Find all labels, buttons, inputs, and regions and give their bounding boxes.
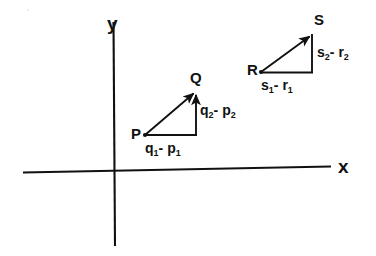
rs-triangle-shape [259, 34, 313, 74]
scan-artifact-speck [27, 9, 29, 11]
rs-vertical-term-b: r [338, 44, 343, 60]
point-label-p: P [131, 126, 141, 141]
pq-horizontal-label: q1- p1 [145, 141, 181, 155]
rs-horizontal-sub-a: 1 [269, 85, 274, 95]
y-axis-label: y [107, 14, 118, 33]
x-axis-line [23, 167, 331, 173]
rs-horizontal-sub-b: 1 [288, 85, 293, 95]
rs-horizontal-term-b: r [282, 77, 287, 93]
pq-horizontal-term-b: p [167, 140, 176, 156]
y-axis-line [114, 22, 116, 246]
pq-vertical-sub-b: 2 [231, 110, 236, 120]
pq-vertical-sub-a: 2 [209, 110, 214, 120]
rs-hypotenuse-arrow [261, 37, 310, 73]
point-label-s: S [314, 12, 324, 27]
point-r-dot [259, 70, 263, 74]
pq-horizontal-sub-b: 1 [176, 148, 181, 158]
rs-horizontal-label: s1- r1 [261, 78, 293, 92]
rs-vertical-term-a: s [317, 44, 325, 60]
rs-horizontal-term-a: s [261, 77, 269, 93]
rs-vertical-sub-b: 2 [344, 52, 349, 62]
point-p-dot [143, 133, 147, 137]
pq-triangle-shape [143, 94, 197, 138]
pq-horizontal-operator: - [159, 140, 168, 156]
x-axis-label: x [338, 157, 349, 176]
pq-vertical-label: q2- p2 [200, 103, 236, 117]
point-label-q: Q [190, 70, 202, 85]
rs-vertical-label: s2- r2 [317, 45, 349, 59]
pq-vertical-operator: - [214, 102, 223, 118]
vector-difference-figure: y x P Q q2- p2 q1- p1 R S s2- r2 s1- r1 [0, 0, 376, 256]
pq-horizontal-sub-a: 1 [154, 148, 159, 158]
pq-hypotenuse-arrow [145, 94, 194, 136]
pq-vertical-term-a: q [200, 102, 209, 118]
pq-vertical-term-b: p [222, 102, 231, 118]
point-label-r: R [247, 62, 258, 77]
rs-vertical-sub-a: 2 [325, 52, 330, 62]
figure-canvas [0, 0, 376, 256]
pq-horizontal-term-a: q [145, 140, 154, 156]
